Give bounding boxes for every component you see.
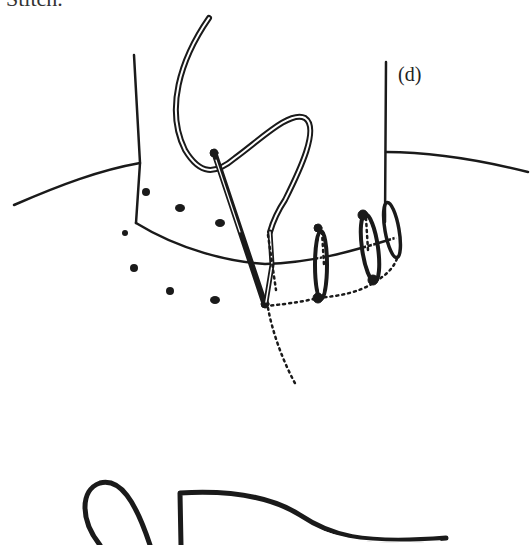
stitch-illustration — [0, 0, 530, 545]
tube-left-edge — [134, 55, 140, 223]
thread — [176, 18, 310, 232]
loop-stitches — [313, 201, 404, 303]
hem-curve — [136, 223, 395, 264]
tube-right-edge — [385, 62, 386, 222]
next-figure-partial — [85, 482, 446, 545]
fabric-edge-right — [386, 152, 528, 172]
fabric-edge-left — [14, 163, 140, 205]
needle-icon — [214, 152, 265, 305]
